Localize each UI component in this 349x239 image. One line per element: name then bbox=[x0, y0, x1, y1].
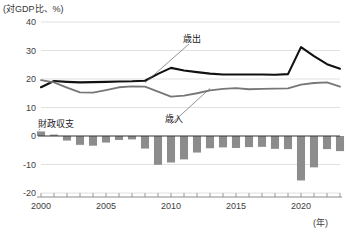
bar bbox=[206, 136, 214, 148]
series-line-expenditure bbox=[41, 47, 340, 87]
fiscal-chart: 403020100-10-20 20002005201020152020 歳出歳… bbox=[0, 0, 349, 239]
bar bbox=[102, 136, 110, 143]
chart-canvas: 403020100-10-20 20002005201020152020 歳出歳… bbox=[0, 0, 349, 239]
bar bbox=[323, 136, 331, 149]
y-tick-label: -10 bbox=[23, 160, 36, 170]
bar bbox=[76, 136, 84, 145]
bars bbox=[37, 131, 344, 180]
series-lines bbox=[41, 47, 340, 97]
bar bbox=[310, 136, 318, 167]
bar bbox=[154, 136, 162, 165]
bar bbox=[89, 136, 97, 146]
bar bbox=[258, 136, 266, 147]
gridlines bbox=[41, 22, 340, 193]
bar bbox=[167, 136, 175, 163]
bar bbox=[63, 136, 71, 141]
bar bbox=[141, 136, 149, 149]
y-tick-label: 30 bbox=[26, 46, 36, 56]
annotation-label: 歳出 bbox=[183, 33, 201, 44]
y-tick-label: 0 bbox=[31, 131, 36, 141]
x-tick-label: 2020 bbox=[291, 201, 311, 211]
y-tick-label: 40 bbox=[26, 17, 36, 27]
x-tick-label: 2010 bbox=[161, 201, 181, 211]
annotation-leader-line bbox=[39, 129, 40, 130]
bar bbox=[180, 136, 188, 159]
bar bbox=[284, 136, 292, 149]
x-tick-label: 2005 bbox=[96, 201, 116, 211]
x-axis-title: (年) bbox=[313, 217, 328, 228]
annotation-label: 財政収支 bbox=[38, 118, 74, 129]
y-tick-label: 10 bbox=[26, 103, 36, 113]
bar bbox=[115, 136, 123, 140]
annotation-label: 歳入 bbox=[165, 113, 183, 124]
x-tick-label: 2000 bbox=[31, 201, 51, 211]
annotation-leader-line bbox=[145, 44, 189, 83]
bar bbox=[232, 136, 240, 148]
x-axis-tick-labels: 20002005201020152020 bbox=[31, 201, 311, 211]
x-tick-label: 2015 bbox=[226, 201, 246, 211]
bar bbox=[219, 136, 227, 147]
y-tick-label: -20 bbox=[23, 188, 36, 198]
bar bbox=[193, 136, 201, 153]
y-axis-tick-labels: 403020100-10-20 bbox=[23, 17, 36, 198]
bar bbox=[336, 136, 344, 151]
bar bbox=[37, 131, 45, 136]
bar bbox=[271, 136, 279, 149]
bar bbox=[297, 136, 305, 180]
y-tick-label: 20 bbox=[26, 74, 36, 84]
y-axis-unit-title: (対GDP比、%) bbox=[3, 3, 64, 14]
x-axis bbox=[37, 193, 342, 197]
bar bbox=[245, 136, 253, 147]
